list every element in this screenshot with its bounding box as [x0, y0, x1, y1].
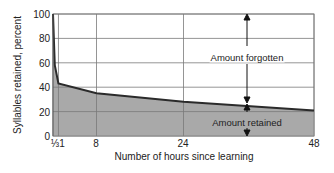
x-tick-24: 24 — [177, 138, 188, 149]
y-tick-40: 40 — [26, 82, 50, 93]
y-tick-60: 60 — [26, 58, 50, 69]
x-tick-1: 1 — [59, 138, 65, 149]
x-tick-8: 8 — [93, 138, 99, 149]
y-axis-label: Syllables retained, percent — [12, 16, 23, 134]
x-tick-48: 48 — [308, 138, 319, 149]
x-tick-third: ⅓ — [51, 138, 59, 149]
x-axis-label: Number of hours since learning — [115, 151, 254, 162]
amount-retained-label: Amount retained — [212, 117, 282, 128]
amount-forgotten-label: Amount forgotten — [210, 52, 285, 63]
y-tick-100: 100 — [26, 9, 50, 20]
y-tick-0: 0 — [26, 131, 50, 142]
y-tick-80: 80 — [26, 33, 50, 44]
y-tick-20: 20 — [26, 107, 50, 118]
